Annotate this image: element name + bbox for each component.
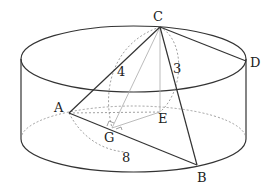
cylinder-diagram: C D A B E G 4 3 8	[0, 0, 272, 194]
length-AB: 8	[122, 150, 130, 165]
label-D: D	[250, 55, 260, 70]
edge-CB	[160, 27, 197, 165]
line-GE	[112, 112, 160, 128]
length-CB: 3	[173, 61, 181, 76]
label-A: A	[53, 100, 64, 115]
label-G: G	[104, 130, 114, 145]
label-B: B	[197, 170, 207, 185]
edge-CA	[69, 27, 160, 113]
length-CA: 4	[117, 64, 125, 79]
label-C: C	[153, 9, 163, 24]
right-angle-mark-2	[116, 127, 122, 130]
bottom-ellipse-front	[21, 139, 246, 172]
label-E: E	[158, 111, 168, 126]
dotted-AE	[69, 112, 160, 113]
